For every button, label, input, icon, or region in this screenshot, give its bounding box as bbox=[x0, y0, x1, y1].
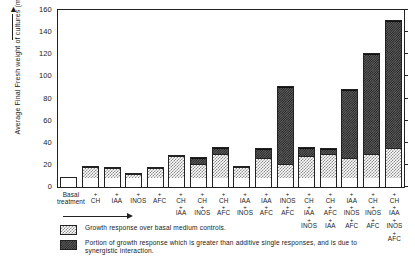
bar-segment-growth-response bbox=[234, 167, 249, 178]
bar[interactable] bbox=[385, 20, 402, 187]
x-label-term: IAA bbox=[106, 197, 127, 204]
x-label-term: Basal bbox=[57, 191, 85, 198]
bar[interactable] bbox=[147, 167, 164, 187]
bars-container bbox=[58, 10, 404, 187]
bar-segment-basal bbox=[105, 178, 120, 187]
y-tick-label: 20 bbox=[43, 160, 52, 169]
y-tick-mark-right bbox=[404, 186, 408, 187]
y-tick-label: 60 bbox=[43, 116, 52, 125]
bar[interactable] bbox=[212, 147, 229, 187]
bar-segment-basal bbox=[148, 178, 163, 187]
x-label-term: AFC bbox=[277, 209, 298, 216]
plot-inner: 020406080100120140160 bbox=[58, 10, 404, 187]
bar-slot bbox=[231, 10, 253, 187]
bar-segment-basal bbox=[386, 178, 401, 187]
legend: Growth response over basal medium contro… bbox=[60, 224, 410, 259]
x-axis-direction-arrow-icon bbox=[63, 213, 137, 219]
bar-segment-growth-response bbox=[342, 158, 357, 178]
bar-segment-synergistic bbox=[342, 90, 357, 159]
bar-segment-basal bbox=[342, 178, 357, 187]
bar-segment-synergistic bbox=[299, 148, 314, 156]
bar-slot bbox=[101, 10, 123, 187]
y-tick-mark-right bbox=[404, 142, 408, 143]
bar-segment-synergistic bbox=[256, 149, 271, 158]
bar-segment-growth-response bbox=[169, 156, 184, 178]
bar-segment-basal bbox=[278, 178, 293, 187]
x-label-term: INOS bbox=[128, 197, 149, 204]
y-tick-label: 160 bbox=[39, 5, 52, 14]
legend-item: Portion of growth response which is grea… bbox=[60, 239, 410, 255]
bar-segment-basal bbox=[321, 178, 336, 187]
x-label-term: AFC bbox=[149, 197, 170, 204]
bar-segment-synergistic bbox=[386, 21, 401, 148]
bar-slot bbox=[361, 10, 383, 187]
x-label-term: CH bbox=[85, 197, 106, 204]
y-tick-mark-right bbox=[404, 31, 408, 32]
legend-item: Growth response over basal medium contro… bbox=[60, 224, 410, 235]
y-tick-mark-right bbox=[404, 53, 408, 54]
legend-label: Portion of growth response which is grea… bbox=[85, 239, 385, 255]
bar-slot bbox=[296, 10, 318, 187]
bar-segment-basal bbox=[126, 178, 141, 187]
y-tick-label: 0 bbox=[48, 182, 52, 191]
bar[interactable] bbox=[255, 148, 272, 187]
bar-segment-growth-response bbox=[321, 154, 336, 178]
bar-segment-basal bbox=[213, 178, 228, 187]
y-tick-mark-right bbox=[404, 9, 408, 10]
bar-slot bbox=[253, 10, 275, 187]
bar-segment-growth-response bbox=[213, 154, 228, 178]
x-label-term: IAA bbox=[170, 209, 191, 216]
bar-segment-basal bbox=[191, 178, 206, 187]
bar-segment-growth-response bbox=[191, 164, 206, 178]
bar-slot bbox=[188, 10, 210, 187]
figure-bar-chart: ▲ Average Final Fresh weight of cultures… bbox=[0, 0, 415, 270]
y-tick-mark-right bbox=[404, 120, 408, 121]
bar[interactable] bbox=[82, 166, 99, 187]
legend-label: Growth response over basal medium contro… bbox=[85, 224, 226, 232]
y-tick-label: 80 bbox=[43, 94, 52, 103]
bar-segment-basal bbox=[299, 178, 314, 187]
bar[interactable] bbox=[320, 148, 337, 187]
bar-segment-basal bbox=[234, 178, 249, 187]
plot-area: 020406080100120140160 bbox=[57, 9, 405, 188]
bar-segment-growth-response bbox=[386, 148, 401, 178]
bar[interactable] bbox=[168, 155, 185, 187]
bar-segment-growth-response bbox=[299, 156, 314, 178]
y-tick-label: 100 bbox=[39, 71, 52, 80]
bar-slot bbox=[382, 10, 404, 187]
y-tick-mark-right bbox=[404, 98, 408, 99]
bar[interactable] bbox=[190, 157, 207, 187]
x-label-term: treatment bbox=[57, 198, 85, 205]
bar-slot bbox=[123, 10, 145, 187]
bar-segment-growth-response bbox=[278, 164, 293, 178]
bar-segment-basal bbox=[61, 178, 76, 187]
bar-segment-growth-response bbox=[148, 168, 163, 178]
y-tick-mark-right bbox=[404, 164, 408, 165]
bar[interactable] bbox=[60, 177, 77, 187]
bar[interactable] bbox=[104, 167, 121, 187]
bar-segment-growth-response bbox=[105, 168, 120, 178]
x-label-term: INOS bbox=[234, 209, 255, 216]
bar-slot bbox=[274, 10, 296, 187]
bar-slot bbox=[166, 10, 188, 187]
bar-segment-growth-response bbox=[364, 154, 379, 178]
y-tick-label: 40 bbox=[43, 138, 52, 147]
bar-segment-growth-response bbox=[83, 167, 98, 178]
legend-swatch-syn bbox=[60, 240, 77, 250]
bar[interactable] bbox=[341, 89, 358, 187]
legend-swatch-growth bbox=[60, 225, 77, 235]
bar[interactable] bbox=[233, 166, 250, 187]
bar-segment-basal bbox=[83, 178, 98, 187]
y-axis-title: Average Final Fresh weight of cultures (… bbox=[14, 0, 21, 139]
bar-slot bbox=[80, 10, 102, 187]
bar-slot bbox=[209, 10, 231, 187]
bar[interactable] bbox=[298, 147, 315, 187]
bar-slot bbox=[318, 10, 340, 187]
x-label-term: AFC bbox=[256, 209, 277, 216]
bar[interactable] bbox=[363, 53, 380, 187]
y-tick-label: 120 bbox=[39, 49, 52, 58]
bar-segment-basal bbox=[169, 178, 184, 187]
x-label-term: INOS bbox=[192, 209, 213, 216]
bar[interactable] bbox=[125, 173, 142, 187]
bar[interactable] bbox=[277, 86, 294, 187]
